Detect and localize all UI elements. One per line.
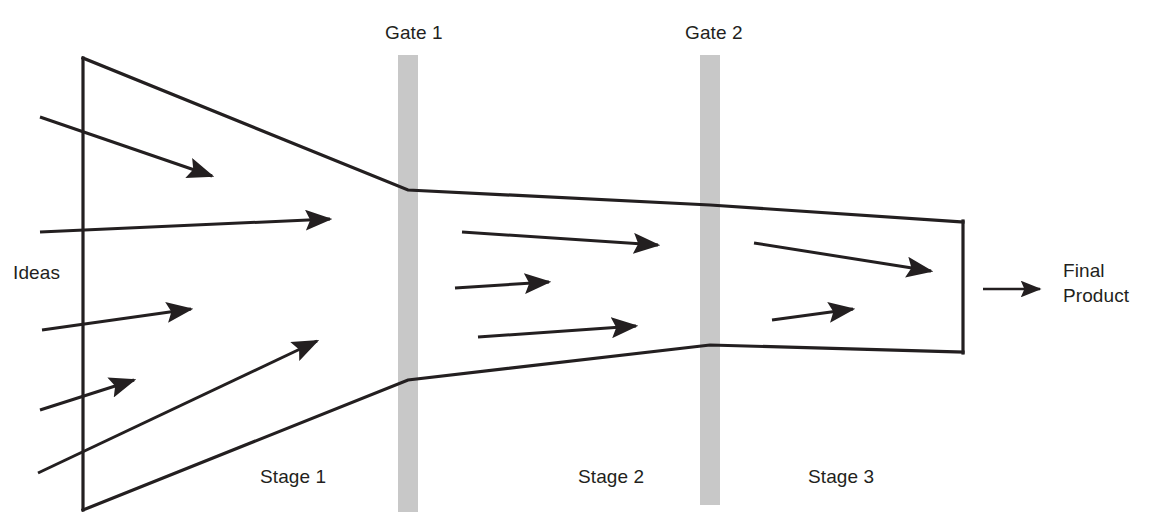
stage-2-label: Stage 2 [578,464,644,489]
final-product-label: Final Product [1063,258,1129,308]
stage-3-label: Stage 3 [808,464,874,489]
gate-2-label: Gate 2 [685,20,743,45]
diagram-canvas [0,0,1158,530]
idea-arrow-3 [42,309,191,330]
idea-arrow-4 [40,380,134,410]
stage-3-arrow-2 [772,309,853,320]
gate-1-label: Gate 1 [385,20,443,45]
stage-gate-funnel-diagram: Gate 1 Gate 2 Ideas Final Product Stage … [0,0,1158,530]
stage-2-arrow-2 [455,282,549,288]
stage-3-arrows-group [754,243,931,320]
stage-2-arrows-group [455,232,658,337]
funnel-top-edge [83,58,963,222]
stage-1-label: Stage 1 [260,464,326,489]
stage-3-arrow-1 [754,243,931,271]
idea-arrow-1 [40,117,212,176]
ideas-label: Ideas [13,260,60,285]
idea-arrow-5 [38,341,317,473]
gate-2-bar [700,55,720,505]
gate-1-bar [398,55,418,512]
stage-2-arrow-3 [478,326,636,337]
stage-2-arrow-1 [462,232,658,245]
